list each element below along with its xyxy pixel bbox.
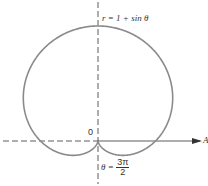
origin-label: 0 xyxy=(88,127,93,137)
polar-axis-label: A xyxy=(203,135,208,145)
cardioid-curve xyxy=(23,26,172,155)
polar-axis-arrow-icon xyxy=(192,138,202,144)
angle-label: θ = 3π2 xyxy=(101,158,129,177)
equation-label: r = 1 + sin θ xyxy=(102,13,148,23)
